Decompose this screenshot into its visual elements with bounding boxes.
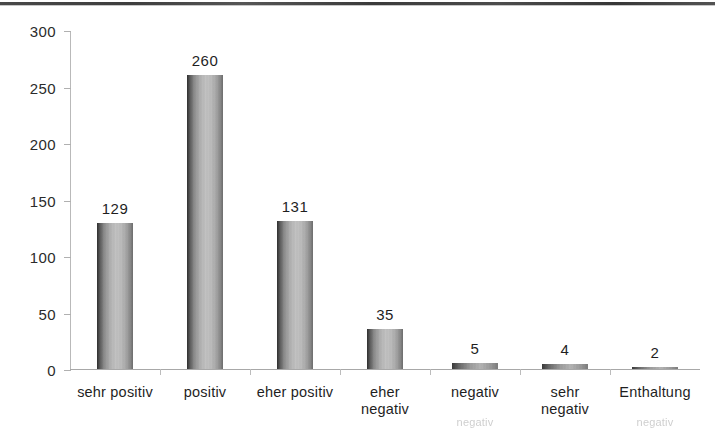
bar-group <box>430 30 520 369</box>
bar[interactable] <box>97 223 133 369</box>
bar-value-label: 5 <box>471 340 480 357</box>
scan-ghost-text: negativ <box>610 416 700 428</box>
chart-page: 050100150200250300129sehr positiv260posi… <box>0 0 715 440</box>
bar-value-label: 4 <box>561 341 570 358</box>
x-axis-line <box>70 369 700 370</box>
bar-group <box>520 30 610 369</box>
bar-value-label: 35 <box>376 306 394 323</box>
bar-value-label: 131 <box>282 198 309 215</box>
bar-group <box>610 30 700 369</box>
y-axis-tick-label: 100 <box>0 249 56 266</box>
y-axis-tick-label: 50 <box>0 305 56 322</box>
bar-value-label: 129 <box>102 200 129 217</box>
bar-value-label: 260 <box>192 52 219 69</box>
bar-group <box>160 30 250 369</box>
x-axis-category-label: Enthaltung <box>610 384 700 401</box>
x-axis-tick <box>250 369 251 375</box>
x-axis-category-label: sehr negativ <box>520 384 610 418</box>
x-axis-category-label: positiv <box>160 384 250 401</box>
bar[interactable] <box>187 75 223 369</box>
scan-ghost-text: negativ <box>430 416 520 428</box>
x-axis-category-label: negativ <box>430 384 520 401</box>
bar[interactable] <box>632 367 678 369</box>
x-axis-tick <box>520 369 521 375</box>
y-axis-tick <box>64 370 71 371</box>
y-axis-tick-label: 150 <box>0 192 56 209</box>
scan-artifact-line <box>0 2 715 5</box>
bar[interactable] <box>277 221 313 369</box>
x-axis-tick <box>340 369 341 375</box>
y-axis-tick-label: 0 <box>0 362 56 379</box>
y-axis-tick-label: 250 <box>0 79 56 96</box>
x-axis-tick <box>160 369 161 375</box>
x-axis-category-label: eher positiv <box>250 384 340 401</box>
bar[interactable] <box>452 363 498 369</box>
y-axis-tick-label: 300 <box>0 23 56 40</box>
x-axis-category-label: sehr positiv <box>70 384 160 401</box>
x-axis-tick <box>430 369 431 375</box>
bar-value-label: 2 <box>651 344 660 361</box>
bar[interactable] <box>367 329 403 369</box>
y-axis-tick-label: 200 <box>0 136 56 153</box>
bar[interactable] <box>542 364 588 369</box>
x-axis-tick <box>610 369 611 375</box>
x-axis-category-label: eher negativ <box>340 384 430 418</box>
